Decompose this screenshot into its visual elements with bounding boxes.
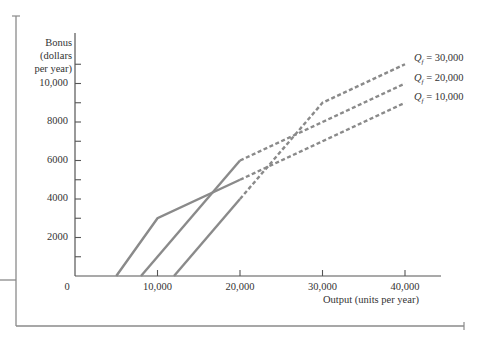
x-axis-label: Output (units per year): [323, 294, 419, 305]
x-tick-label: 10,000: [128, 281, 188, 292]
series-solid-line: [116, 180, 240, 276]
x-tick-label: 20,000: [210, 281, 270, 292]
series-dashed-line: [240, 103, 405, 180]
y-axis-label-line-2: (dollars: [34, 49, 72, 62]
y-axis-label-line-1: Bonus: [34, 36, 72, 49]
y-tick-label: 2000: [8, 231, 68, 242]
legend-label: Qf = 10,000: [414, 91, 464, 105]
legend-label: Qf = 20,000: [414, 72, 464, 86]
y-tick-label: 4000: [8, 192, 68, 203]
y-axis-label-line-3: per year): [34, 62, 72, 75]
y-ticks: [75, 64, 81, 257]
x-ticks: [158, 270, 406, 276]
x-tick-label: 30,000: [293, 281, 353, 292]
legend-label: Qf = 30,000: [414, 52, 464, 66]
series-solid-line: [174, 199, 240, 276]
series-lines: [116, 64, 405, 276]
y-tick-label: 8000: [8, 115, 68, 126]
y-tick-label: 10,000: [8, 77, 68, 88]
x-tick-label: 0: [37, 281, 97, 292]
series-dashed-line: [240, 84, 405, 161]
y-axis-label: Bonus (dollars per year): [34, 36, 72, 75]
series-solid-line: [141, 161, 240, 277]
y-tick-label: 6000: [8, 154, 68, 165]
x-tick-label: 40,000: [375, 281, 435, 292]
series-dashed-line: [240, 64, 405, 199]
